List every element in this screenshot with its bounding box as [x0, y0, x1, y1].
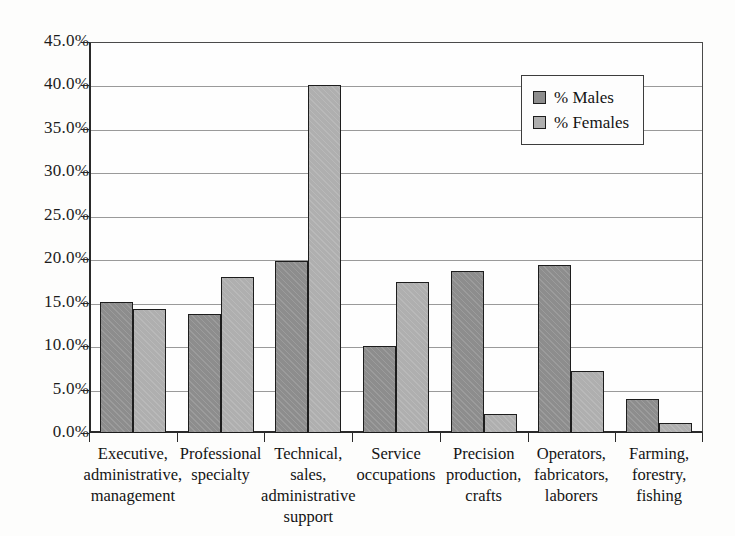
x-axis-tick-mark: [440, 433, 441, 442]
bar-males: [626, 399, 659, 433]
x-axis-category-label: Farming, forestry, fishing: [602, 443, 716, 506]
bar-males: [275, 261, 308, 433]
bar-females: [571, 371, 604, 433]
y-axis-tick-label: 20.0%: [9, 248, 89, 268]
bar-females: [659, 423, 692, 433]
x-axis-tick-mark: [264, 433, 265, 442]
y-axis-tick-mark: [81, 433, 89, 434]
y-axis-tick-mark: [81, 259, 89, 260]
y-axis-tick-label: 45.0%: [9, 31, 89, 51]
y-axis-tick-mark: [81, 172, 89, 173]
legend-item: % Females: [533, 110, 629, 135]
x-axis-tick-mark: [177, 433, 178, 442]
y-axis-tick-label: 10.0%: [9, 335, 89, 355]
x-axis-tick-mark: [89, 433, 90, 442]
y-axis-tick-mark: [81, 346, 89, 347]
y-axis-tick-mark: [81, 129, 89, 130]
y-axis-tick-label: 15.0%: [9, 292, 89, 312]
y-axis-tick-mark: [81, 42, 89, 43]
legend-item: % Males: [533, 85, 629, 110]
y-axis-tick-label: 30.0%: [9, 161, 89, 181]
bar-males: [188, 314, 221, 433]
chart-legend: % Males% Females: [521, 75, 644, 145]
y-axis-tick-label: 5.0%: [9, 379, 89, 399]
y-axis-tick-mark: [81, 303, 89, 304]
y-axis-tick-label: 0.0%: [9, 422, 89, 442]
x-axis-tick-mark: [702, 433, 703, 442]
legend-swatch-icon: [533, 116, 546, 129]
chart-page: 0.0%5.0%10.0%15.0%20.0%25.0%30.0%35.0%40…: [0, 0, 735, 536]
bar-females: [133, 309, 166, 433]
legend-item-label: % Males: [554, 88, 614, 108]
y-axis-tick-mark: [81, 390, 89, 391]
y-axis-tick-label: 40.0%: [9, 74, 89, 94]
bar-males: [363, 346, 396, 433]
bar-females: [308, 85, 341, 433]
y-axis-tick-label: 35.0%: [9, 118, 89, 138]
legend-item-label: % Females: [554, 113, 629, 133]
x-axis-tick-mark: [528, 433, 529, 442]
bar-males: [451, 271, 484, 433]
legend-swatch-icon: [533, 91, 546, 104]
bar-males: [100, 302, 133, 433]
bar-females: [221, 277, 254, 433]
x-axis-tick-mark: [352, 433, 353, 442]
y-axis-tick-mark: [81, 216, 89, 217]
x-axis-tick-mark: [615, 433, 616, 442]
bar-females: [396, 282, 429, 433]
y-axis-tick-mark: [81, 85, 89, 86]
bar-males: [538, 265, 571, 433]
bar-females: [484, 414, 517, 433]
y-axis-tick-label: 25.0%: [9, 205, 89, 225]
